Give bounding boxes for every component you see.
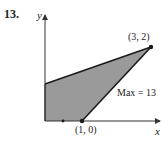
- vertex-1-0-dot: [80, 119, 84, 123]
- tick-dot: [62, 120, 65, 123]
- problem-number: 13.: [4, 8, 19, 20]
- max-annotation: Max = 13: [117, 88, 156, 98]
- y-axis-label: y: [37, 10, 42, 21]
- vertex-3-2-dot: [149, 45, 153, 49]
- vertex-label-3-2: (3, 2): [128, 32, 150, 42]
- vertex-label-1-0: (1, 0): [75, 125, 97, 135]
- x-axis-label: x: [155, 126, 160, 137]
- feasible-region: [45, 47, 151, 121]
